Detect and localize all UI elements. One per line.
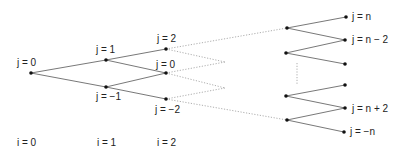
lattice-edge <box>286 40 345 53</box>
dotted-edge <box>166 99 287 120</box>
step-label: i = 2 <box>157 137 177 148</box>
lattice-node <box>164 71 168 75</box>
dotted-edge <box>166 28 287 49</box>
lattice-edge <box>106 73 166 87</box>
node-label: j = −2 <box>154 104 180 115</box>
binomial-lattice-diagram: j = 0j = 1j = −1j = 2j = 0j = −2j = nj =… <box>0 0 404 157</box>
lattice-edge <box>286 53 345 64</box>
lattice-node <box>164 97 168 101</box>
step-label: i = 0 <box>17 137 37 148</box>
node-label: j = 0 <box>155 59 176 70</box>
lattice-node <box>284 51 288 55</box>
node-label: j = 0 <box>16 57 37 68</box>
lattice-canvas: j = 0j = 1j = −1j = 2j = 0j = −2j = nj =… <box>0 0 404 157</box>
node-label: j = −n <box>349 126 375 137</box>
solid-edges <box>31 17 346 132</box>
lattice-edge <box>31 73 106 87</box>
lattice-node <box>342 130 346 134</box>
lattice-node <box>285 118 289 122</box>
lattice-node <box>285 26 289 30</box>
node-label: j = 1 <box>95 44 116 55</box>
lattice-edge <box>287 28 345 40</box>
node-labels: j = 0j = 1j = −1j = 2j = 0j = −2j = nj =… <box>16 11 389 137</box>
lattice-node <box>344 15 348 19</box>
node-label: j = n − 2 <box>351 34 389 45</box>
lattice-node <box>284 94 288 98</box>
lattice-edge <box>287 17 346 28</box>
lattice-node <box>343 83 347 87</box>
lattice-node <box>343 62 347 66</box>
lattice-edge <box>287 120 344 132</box>
lattice-node <box>104 85 108 89</box>
lattice-edge <box>286 85 345 96</box>
step-labels: i = 0i = 1i = 2 <box>17 137 177 148</box>
step-label: i = 1 <box>97 137 117 148</box>
lattice-edge <box>286 96 345 108</box>
node-label: j = −1 <box>95 91 121 102</box>
node-label: j = n <box>351 11 371 22</box>
node-label: j = 2 <box>156 33 177 44</box>
node-label: j = n + 2 <box>351 103 389 114</box>
lattice-nodes <box>29 15 348 134</box>
dotted-edge <box>166 88 225 99</box>
dotted-edge <box>166 73 225 88</box>
lattice-node <box>343 106 347 110</box>
dotted-edges <box>166 28 297 120</box>
lattice-node <box>29 71 33 75</box>
lattice-node <box>164 47 168 51</box>
lattice-edge <box>287 108 345 120</box>
lattice-node <box>343 38 347 42</box>
lattice-node <box>104 58 108 62</box>
lattice-edge <box>31 60 106 73</box>
